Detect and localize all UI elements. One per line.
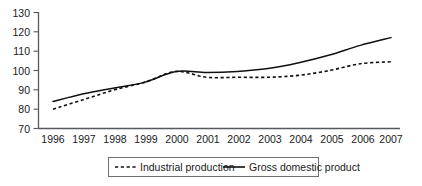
y-tick-label: 90 — [18, 84, 30, 96]
y-tick-label: 120 — [12, 26, 30, 38]
y-tick-label: 130 — [12, 7, 30, 19]
legend-label-gross-domestic-product: Gross domestic product — [249, 161, 360, 173]
x-tick-label: 1999 — [134, 133, 158, 145]
y-tick-label: 110 — [13, 45, 30, 57]
x-tick-label: 2002 — [227, 133, 251, 145]
legend-label-industrial-production: Industrial production — [140, 161, 235, 173]
x-tick-label: 1996 — [41, 133, 65, 145]
y-tick-label: 70 — [18, 123, 30, 135]
x-tick-label: 2001 — [196, 133, 220, 145]
y-tick-label: 80 — [18, 103, 30, 115]
chart-canvas: 130 120 110 100 90 80 70 1996 1997 1998 … — [0, 0, 422, 186]
x-tick-label: 2004 — [289, 133, 313, 145]
x-tick-label: 2005 — [320, 133, 344, 145]
x-tick-label: 1997 — [72, 133, 96, 145]
y-tick-label: 100 — [12, 65, 30, 77]
x-tick-label: 1998 — [103, 133, 127, 145]
x-tick-label: 2003 — [258, 133, 282, 145]
x-tick-label: 2007 — [379, 133, 403, 145]
x-tick-label: 2000 — [165, 133, 189, 145]
x-tick-label: 2006 — [351, 133, 375, 145]
line-chart: 130 120 110 100 90 80 70 1996 1997 1998 … — [0, 0, 422, 186]
